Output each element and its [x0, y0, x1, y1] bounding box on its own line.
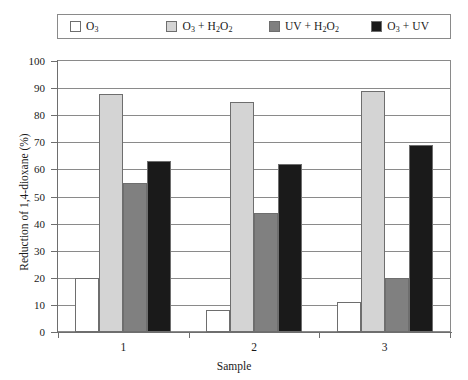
- y-axis-tick: [51, 278, 57, 279]
- y-axis-tick: [51, 305, 57, 306]
- y-axis-tick: [51, 197, 57, 198]
- legend-item-label: O3: [86, 21, 99, 33]
- bar-1-o3: [75, 278, 99, 332]
- y-axis-tick-label: 80: [5, 110, 45, 121]
- legend-item-label: UV + H2O2: [285, 21, 339, 33]
- bar-3-o3-h2o2: [361, 91, 385, 332]
- y-axis-tick-label: 20: [5, 272, 45, 283]
- x-axis-title: Sample: [0, 360, 468, 372]
- legend-item-o3-uv: O3 + UV: [371, 15, 450, 38]
- x-axis-tick: [450, 332, 451, 338]
- bar-3-uv-h2o2: [385, 278, 409, 332]
- bar-2-o3-h2o2: [230, 102, 254, 332]
- y-axis-tick: [51, 61, 57, 62]
- bar-2-uv-h2o2: [254, 213, 278, 332]
- y-axis-tick-label: 0: [5, 327, 45, 338]
- bar-1-uv-h2o2: [123, 183, 147, 332]
- y-axis-tick: [51, 169, 57, 170]
- bar-3-o3: [337, 302, 361, 332]
- legend-swatch-icon: [269, 21, 280, 32]
- legend-swatch-icon: [371, 21, 382, 32]
- y-axis-tick: [51, 142, 57, 143]
- x-axis-tick-label: 1: [103, 341, 143, 353]
- bars-layer: [58, 61, 450, 332]
- y-axis-tick-label: 40: [5, 218, 45, 229]
- y-axis-tick-label: 50: [5, 191, 45, 202]
- chart-legend: O3O3 + H2O2UV + H2O2O3 + UV: [57, 14, 451, 39]
- legend-item-o3: O3: [70, 15, 166, 38]
- y-axis-tick-label: 30: [5, 245, 45, 256]
- bar-2-o3-uv: [278, 164, 302, 332]
- y-axis-tick-label: 60: [5, 164, 45, 175]
- y-axis-tick-label: 90: [5, 83, 45, 94]
- bar-2-o3: [206, 310, 230, 332]
- x-axis-line: [57, 332, 452, 333]
- legend-item-label: O3 + H2O2: [182, 21, 232, 33]
- legend-item-uv-h2o2: UV + H2O2: [269, 15, 371, 38]
- y-axis-tick: [51, 251, 57, 252]
- bar-1-o3-uv: [147, 161, 171, 332]
- y-axis-tick-label: 10: [5, 299, 45, 310]
- x-axis-tick: [58, 332, 59, 338]
- x-axis-tick: [319, 332, 320, 338]
- y-axis-tick-label: 100: [5, 56, 45, 67]
- x-axis-tick-label: 2: [234, 341, 274, 353]
- legend-item-o3-h2o2: O3 + H2O2: [166, 15, 268, 38]
- y-axis-tick-label: 70: [5, 137, 45, 148]
- legend-swatch-icon: [70, 21, 81, 32]
- y-axis-tick: [51, 224, 57, 225]
- bar-1-o3-h2o2: [99, 94, 123, 332]
- y-axis-tick: [51, 115, 57, 116]
- legend-item-label: O3 + UV: [387, 21, 429, 33]
- bar-3-o3-uv: [409, 145, 433, 332]
- legend-swatch-icon: [166, 21, 177, 32]
- x-axis-tick: [189, 332, 190, 338]
- x-axis-tick-label: 3: [365, 341, 405, 353]
- y-axis-tick: [51, 88, 57, 89]
- y-axis-tick: [51, 332, 57, 333]
